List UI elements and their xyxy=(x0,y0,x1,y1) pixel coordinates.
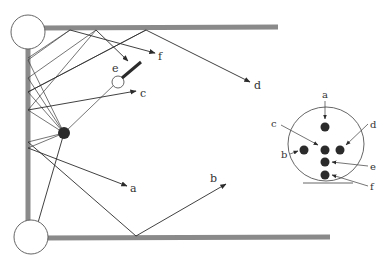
reflection-fan xyxy=(28,30,146,148)
top-wall xyxy=(40,27,278,28)
target-dot-b xyxy=(300,146,309,155)
ray-c xyxy=(28,91,136,110)
ray-e-incoming xyxy=(96,30,128,61)
label-f: f xyxy=(158,50,163,63)
target-diagram: a b c d e f xyxy=(271,89,377,192)
ray-d xyxy=(28,30,250,92)
top-left-circle xyxy=(11,15,45,49)
ray-f xyxy=(70,30,155,53)
bottom-left-circle xyxy=(14,220,48,254)
target-label-f: f xyxy=(370,181,375,192)
label-e: e xyxy=(112,62,119,75)
target-dot-c xyxy=(321,146,330,155)
diagram-canvas: f e c d a b a b c d e f xyxy=(0,0,392,264)
target-label-d: d xyxy=(370,119,377,130)
e-stick xyxy=(122,62,141,78)
bottom-wall xyxy=(40,237,330,238)
target-label-a: a xyxy=(322,89,328,100)
target-dot-e xyxy=(321,158,330,167)
target-label-b: b xyxy=(281,149,287,160)
target-arrow-f xyxy=(332,175,368,186)
target-dot-d xyxy=(336,146,345,155)
ray-a xyxy=(28,148,127,186)
target-circle xyxy=(288,107,364,181)
target-dot-a xyxy=(321,123,330,132)
ray-to-bottom-circle xyxy=(35,133,64,233)
label-c: c xyxy=(140,87,146,100)
walls xyxy=(28,27,330,238)
label-b: b xyxy=(210,172,217,185)
source-dot xyxy=(58,127,70,139)
target-dot-f xyxy=(321,171,330,180)
target-label-c: c xyxy=(271,118,277,129)
label-a: a xyxy=(130,182,137,195)
label-d: d xyxy=(254,79,261,92)
target-label-e: e xyxy=(370,161,376,172)
